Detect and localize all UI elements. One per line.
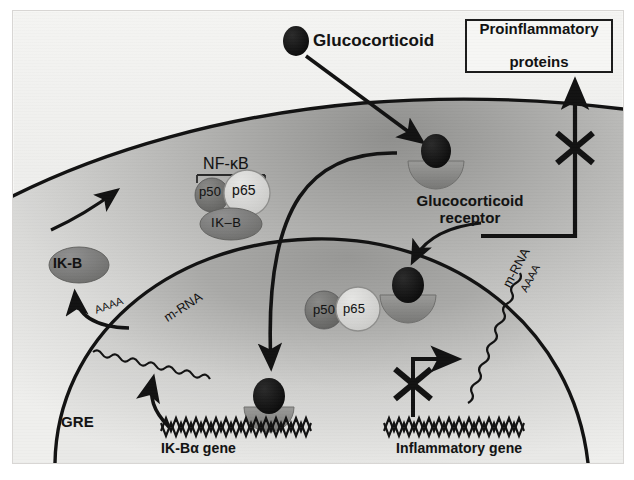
gr-label-line2: receptor — [440, 209, 501, 226]
glucocorticoid-ligand-extracellular — [283, 26, 309, 56]
p65-label-nucleus: p65 — [343, 302, 365, 317]
glucocorticoid-label: Glucocorticoid — [313, 31, 434, 50]
proinflammatory-line1: Proinflammatory — [479, 21, 598, 38]
proinflammatory-proteins-box: Proinflammatory proteins — [465, 19, 613, 73]
gr-label-line1: Glucocorticoid — [416, 192, 523, 209]
nfkb-label: NF-κB — [203, 155, 249, 173]
ligand-nucleus-bound — [392, 267, 424, 303]
ikb-free-label: IK-B — [53, 256, 82, 272]
inflammatory-gene-label: Inflammatory gene — [396, 441, 522, 457]
proinflammatory-line2: proteins — [479, 54, 598, 71]
glucocorticoid-receptor-label: Glucocorticoid receptor — [395, 193, 545, 227]
p50-label-nucleus: p50 — [313, 303, 335, 318]
ikb-complex-label: IK–B — [211, 216, 242, 231]
diagram-vector-layer — [13, 11, 623, 463]
gre-label: GRE — [61, 414, 94, 431]
ikb-alpha-gene-label: IK-Bα gene — [161, 441, 236, 457]
diagram-plate: Proinflammatory proteins Glucocorticoid … — [12, 10, 624, 464]
p50-label-cytoplasm: p50 — [199, 185, 221, 200]
p65-label-cytoplasm: p65 — [232, 183, 256, 199]
figure-canvas: Proinflammatory proteins Glucocorticoid … — [0, 0, 634, 480]
